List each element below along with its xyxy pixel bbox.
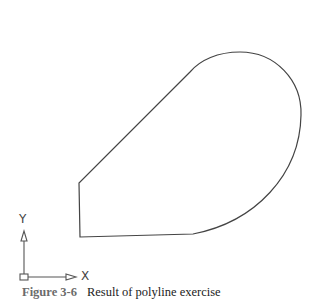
caption-text: Result of polyline exercise [87, 285, 221, 299]
polyline-drawing [0, 0, 314, 308]
figure-caption: Figure 3-6Result of polyline exercise [22, 285, 221, 300]
ucs-icon [20, 231, 76, 280]
x-axis-label: X [81, 269, 89, 283]
figure-number: Figure 3-6 [22, 285, 77, 299]
polyline-shape [79, 52, 301, 237]
y-axis-label: Y [19, 212, 26, 226]
